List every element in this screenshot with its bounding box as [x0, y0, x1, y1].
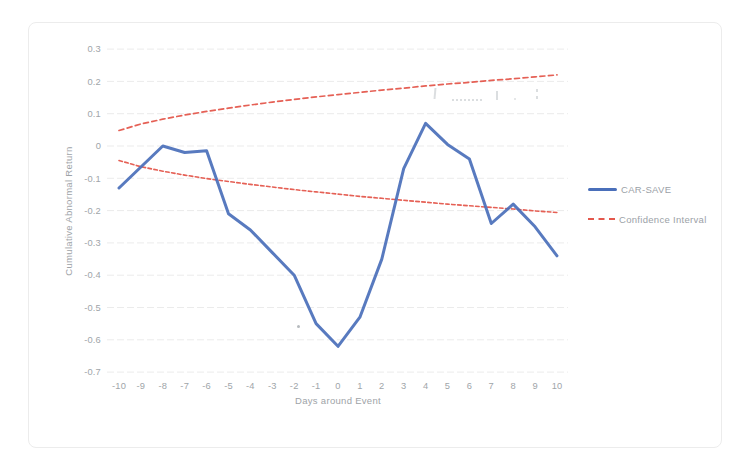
svg-text:-0.2: -0.2	[84, 206, 101, 216]
svg-text:6: 6	[467, 381, 472, 391]
scan-artifact-mark	[536, 96, 538, 99]
legend-label-car-save: CAR-SAVE	[621, 184, 671, 195]
svg-text:0: 0	[335, 381, 340, 391]
scan-artifact-bleedthrough	[430, 86, 560, 108]
svg-text:-4: -4	[246, 381, 255, 391]
svg-text:1: 1	[357, 381, 362, 391]
confidence-interval-line-swatch	[588, 218, 615, 220]
svg-text:0.2: 0.2	[87, 77, 101, 87]
svg-text:-2: -2	[290, 381, 299, 391]
scan-speck	[297, 325, 300, 328]
svg-text:-0.6: -0.6	[84, 335, 101, 345]
legend-item-car-save: CAR-SAVE	[588, 183, 707, 195]
legend-item-confidence-interval: Confidence Interval	[588, 213, 707, 225]
svg-text:-5: -5	[224, 381, 233, 391]
legend-label-confidence-interval: Confidence Interval	[619, 214, 707, 225]
car-save-line-swatch	[588, 188, 617, 191]
svg-text:-0.1: -0.1	[84, 174, 101, 184]
scan-artifact-mark	[496, 91, 498, 100]
svg-text:-8: -8	[158, 381, 167, 391]
svg-text:-1: -1	[312, 381, 321, 391]
svg-text:-7: -7	[180, 381, 189, 391]
svg-text:-0.7: -0.7	[84, 367, 101, 377]
svg-text:-3: -3	[268, 381, 277, 391]
svg-text:-0.3: -0.3	[84, 238, 101, 248]
scan-artifact-mark	[452, 99, 482, 101]
svg-text:-0.5: -0.5	[84, 303, 101, 313]
svg-text:0.3: 0.3	[87, 44, 101, 54]
svg-text:-0.4: -0.4	[84, 270, 101, 280]
scan-artifact-mark	[536, 89, 538, 92]
svg-text:9: 9	[532, 381, 537, 391]
legend: CAR-SAVE Confidence Interval	[588, 183, 707, 243]
x-axis-title: Days around Event	[295, 395, 381, 406]
scan-artifact-mark	[514, 98, 516, 100]
svg-text:-10: -10	[112, 381, 126, 391]
scan-artifact-mark	[434, 88, 437, 99]
scanned-figure-page: 0.30.20.10-0.1-0.2-0.3-0.4-0.5-0.6-0.7-1…	[0, 0, 746, 473]
y-axis-title: Cumulative Abnormal Return	[63, 146, 74, 275]
svg-text:-9: -9	[137, 381, 146, 391]
svg-text:4: 4	[423, 381, 428, 391]
svg-text:5: 5	[445, 381, 450, 391]
svg-text:10: 10	[552, 381, 563, 391]
svg-text:7: 7	[489, 381, 494, 391]
svg-text:2: 2	[379, 381, 384, 391]
svg-text:0: 0	[96, 141, 101, 151]
svg-text:3: 3	[401, 381, 406, 391]
svg-text:0.1: 0.1	[87, 109, 101, 119]
svg-text:-6: -6	[202, 381, 211, 391]
svg-text:8: 8	[511, 381, 516, 391]
